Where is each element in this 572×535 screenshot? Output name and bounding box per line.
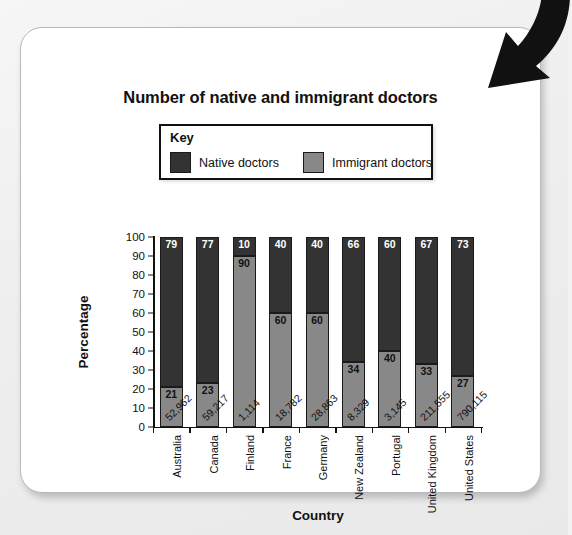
y-axis-tick [148,370,153,371]
bar-segment-value: 40 [307,239,328,250]
bar-segment-native[interactable]: 79 [160,237,183,387]
y-axis-tick [148,389,153,390]
x-axis-tick [226,427,227,433]
bar-segment-value: 60 [379,239,400,250]
x-axis-category-label: United Kingdom [426,435,438,513]
x-axis-tick [153,427,154,433]
chart-legend: Key Native doctors Immigrant doctors [159,124,433,180]
bar-segment-value: 40 [270,239,291,250]
bar-segment-value: 27 [452,378,473,389]
x-axis-tick [408,427,409,433]
bar-segment-value: 23 [197,385,218,396]
x-axis-tick [481,427,482,433]
x-axis-tick [299,427,300,433]
x-axis-tick [372,427,373,433]
y-axis-tick-label: 0 [139,421,145,433]
y-axis-tick-label: 100 [126,231,145,243]
y-axis-tick [148,275,153,276]
bar-segment-value: 40 [379,353,400,364]
y-axis-tick-label: 70 [132,288,145,300]
legend-entry-native: Native doctors [170,152,279,173]
y-axis-tick [148,332,153,333]
bar-segment-value: 66 [343,239,364,250]
bar-segment-native[interactable]: 67 [415,237,438,364]
legend-label-immigrant: Immigrant doctors [332,156,432,170]
bar-segment-value: 79 [161,239,182,250]
y-axis-title: Percentage [76,296,91,369]
y-axis-tick [148,351,153,352]
x-axis-category-label: United States [463,435,475,501]
x-axis-category-label: Germany [317,435,329,480]
bar-segment-native[interactable]: 10 [233,237,256,256]
chart-title: Number of native and immigrant doctors [21,88,540,107]
legend-entry-immigrant: Immigrant doctors [303,152,432,173]
chart-card: Number of native and immigrant doctors K… [20,27,541,493]
bar-segment-value: 73 [452,239,473,250]
x-axis-category-label: Finland [244,435,256,471]
y-axis-tick-label: 30 [132,364,145,376]
bar-segment-native[interactable]: 40 [269,237,292,313]
legend-swatch-immigrant-icon [303,152,324,173]
bar-segment-value: 90 [234,258,255,269]
x-axis-tick [262,427,263,433]
x-axis-category-label: Canada [208,435,220,474]
bar-segment-native[interactable]: 66 [342,237,365,362]
bar-segment-native[interactable]: 60 [378,237,401,351]
legend-title: Key [170,130,194,145]
bar-segment-native[interactable]: 73 [451,237,474,376]
y-axis-tick [148,237,153,238]
x-axis-tick [445,427,446,433]
bar-segment-value: 77 [197,239,218,250]
x-axis-tick [189,427,190,433]
x-axis-category-label: New Zealand [353,435,365,500]
y-axis-tick-label: 90 [132,250,145,262]
y-axis-tick-label: 80 [132,269,145,281]
x-axis-category-label: France [281,435,293,469]
y-axis-tick [148,313,153,314]
legend-label-native: Native doctors [199,156,279,170]
bar-segment-value: 10 [234,239,255,250]
bar-segment-value: 67 [416,239,437,250]
y-axis-tick-label: 20 [132,383,145,395]
plot-area: 0102030405060708090100217952,962Australi… [153,237,481,427]
y-axis-tick [148,408,153,409]
y-axis-tick-label: 50 [132,326,145,338]
bar-segment-value: 33 [416,366,437,377]
y-axis-tick [148,256,153,257]
y-axis-tick-label: 10 [132,402,145,414]
y-axis-tick-label: 60 [132,307,145,319]
x-axis-title: Country [153,508,483,523]
x-axis-tick [335,427,336,433]
y-axis-tick [148,294,153,295]
bar-segment-value: 60 [307,315,328,326]
legend-swatch-native-icon [170,152,191,173]
bar-segment-native[interactable]: 40 [306,237,329,313]
bar-segment-value: 34 [343,364,364,375]
x-axis-category-label: Australia [171,435,183,478]
x-axis-category-label: Portugal [390,435,402,476]
bar-segment-value: 60 [270,315,291,326]
bar-segment-native[interactable]: 77 [196,237,219,383]
y-axis-tick-label: 40 [132,345,145,357]
